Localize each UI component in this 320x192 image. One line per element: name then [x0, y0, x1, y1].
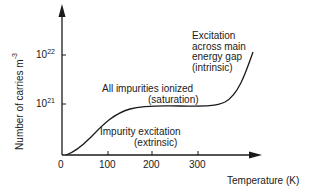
annotation-extrinsic: Impurity excitation (extrinsic): [100, 127, 181, 148]
x-axis-arrow-icon: [249, 152, 262, 159]
x-axis-label: Temperature (K): [227, 175, 299, 186]
x-tick-label-100: 100: [99, 159, 116, 170]
x-tick-label-200: 200: [143, 159, 160, 170]
x-tick-label-0: 0: [58, 159, 64, 170]
annotation-saturation: All impurities ionized (saturation): [102, 84, 199, 105]
y-tick-label-1e22: 1022: [36, 49, 55, 60]
y-axis-label: Number of carries m-3: [14, 47, 25, 157]
x-tick-label-300: 300: [189, 159, 206, 170]
y-axis-arrow-icon: [59, 4, 66, 17]
y-tick-label-1e21: 1021: [36, 98, 55, 109]
annotation-intrinsic: Excitation across main energy gap (intri…: [192, 31, 246, 73]
